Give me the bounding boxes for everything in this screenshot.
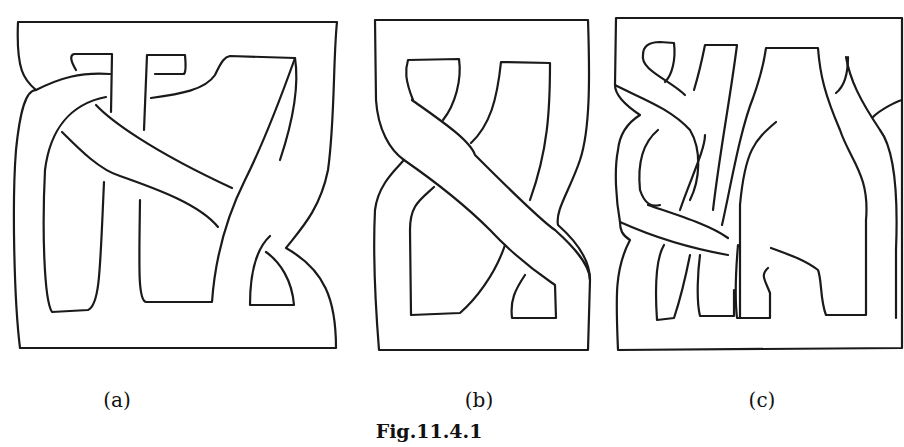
panel-c-strand xyxy=(648,205,728,238)
panel-a-strand xyxy=(280,58,296,160)
panel-c-strand xyxy=(846,57,897,318)
panel-c-strand xyxy=(873,100,902,117)
panel-a-strand xyxy=(71,54,112,112)
panel-c-strand xyxy=(639,130,660,206)
panel-b-strand xyxy=(410,187,505,315)
panel-a-outer-frame xyxy=(14,22,337,348)
panel-a-strand xyxy=(139,56,295,302)
panel-a-drawing xyxy=(14,22,337,348)
panel-c-label: (c) xyxy=(749,388,776,412)
panel-c-strand xyxy=(740,122,776,318)
panel-b-label: (b) xyxy=(465,388,493,412)
panel-b-strand xyxy=(406,59,460,120)
panel-a-label: (a) xyxy=(103,388,131,412)
panel-b-drawing xyxy=(374,20,590,350)
panel-c-strand xyxy=(698,255,734,316)
panel-b-strand xyxy=(471,62,550,200)
panel-c-strand xyxy=(620,222,728,255)
panel-c-strand xyxy=(656,245,690,320)
panel-a-strand xyxy=(44,97,106,312)
panel-c-outer-frame xyxy=(615,18,902,350)
panel-c-strand xyxy=(643,42,685,95)
panel-b-strand xyxy=(404,160,556,318)
figure: (a) (b) (c) Fig.11.4.1 xyxy=(0,0,904,447)
panel-c-drawing xyxy=(615,18,902,350)
panel-c-strand xyxy=(680,135,705,210)
figure-drawing xyxy=(0,0,904,447)
figure-caption: Fig.11.4.1 xyxy=(376,420,483,442)
panel-a-strand xyxy=(36,74,110,90)
panel-c-strand xyxy=(615,85,698,200)
